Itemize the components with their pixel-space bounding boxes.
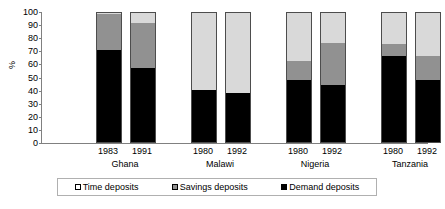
bar-segment-time [382, 13, 406, 44]
y-tick-mark [39, 91, 42, 92]
bar-segment-time [131, 13, 155, 23]
bar-tanzania-1980 [381, 12, 407, 143]
bar-segment-demand [226, 93, 250, 142]
y-tick-mark [39, 38, 42, 39]
y-tick-label: 50 [28, 73, 38, 82]
bar-segment-demand [382, 56, 406, 142]
bar-segment-demand [287, 80, 311, 142]
legend-swatch-time-icon [75, 184, 81, 190]
bar-segment-demand [131, 68, 155, 142]
legend-swatch-demand-icon [281, 184, 287, 190]
y-tick-label: 10 [28, 125, 38, 134]
y-tick-label: 90 [28, 21, 38, 30]
bar-segment-time [287, 13, 311, 61]
y-tick-mark [39, 64, 42, 65]
y-tick-mark [39, 12, 42, 13]
y-tick-mark [39, 78, 42, 79]
x-year-label: 1991 [122, 146, 162, 157]
legend-item-time[interactable]: Time deposits [75, 182, 139, 192]
legend-label: Time deposits [83, 182, 139, 192]
y-tick-label: 40 [28, 86, 38, 95]
bar-segment-demand [416, 80, 440, 142]
bar-segment-demand [321, 85, 345, 142]
bar-tanzania-1992 [415, 12, 441, 143]
x-axis-line [41, 143, 428, 144]
bar-segment-savings [287, 61, 311, 80]
bar-segment-savings [131, 23, 155, 68]
bar-ghana-1983 [96, 12, 122, 143]
x-group-label: Malawi [175, 159, 265, 170]
y-tick-label: 80 [28, 34, 38, 43]
bar-segment-time [321, 13, 345, 43]
chart-legend: Time depositsSavings depositsDemand depo… [57, 178, 377, 196]
bar-nigeria-1992 [320, 12, 346, 143]
bar-segment-time [226, 13, 250, 93]
x-year-label: 1992 [312, 146, 352, 157]
x-group-label: Nigeria [270, 159, 360, 170]
bar-ghana-1991 [130, 12, 156, 143]
x-year-label: 1992 [407, 146, 445, 157]
y-tick-mark [39, 104, 42, 105]
plot-area [41, 12, 428, 143]
y-tick-mark [39, 130, 42, 131]
y-tick-label: 20 [28, 112, 38, 121]
y-tick-label: 30 [28, 99, 38, 108]
x-group-label: Ghana [80, 159, 170, 170]
bar-segment-savings [382, 44, 406, 56]
y-tick-label: 70 [28, 47, 38, 56]
legend-swatch-savings-icon [172, 184, 178, 190]
bar-segment-savings [321, 43, 345, 86]
y-tick-mark [39, 117, 42, 118]
x-group-label: Tanzania [365, 159, 445, 170]
bar-segment-time [416, 13, 440, 56]
y-axis-tick-labels: 1009080706050403020100 [14, 12, 38, 143]
y-tick-label: 100 [23, 8, 38, 17]
bar-segment-time [192, 13, 216, 90]
bar-malawi-1992 [225, 12, 251, 143]
y-tick-label: 60 [28, 60, 38, 69]
bar-segment-savings [97, 14, 121, 50]
bar-segment-savings [416, 56, 440, 81]
y-tick-mark [39, 25, 42, 26]
bar-malawi-1980 [191, 12, 217, 143]
bar-segment-demand [192, 90, 216, 142]
legend-label: Demand deposits [289, 182, 359, 192]
y-tick-mark [39, 51, 42, 52]
bar-nigeria-1980 [286, 12, 312, 143]
legend-label: Savings deposits [180, 182, 248, 192]
y-tick-label: 0 [33, 139, 38, 148]
legend-item-savings[interactable]: Savings deposits [172, 182, 248, 192]
x-year-label: 1992 [217, 146, 257, 157]
legend-item-demand[interactable]: Demand deposits [281, 182, 359, 192]
bar-segment-demand [97, 50, 121, 142]
